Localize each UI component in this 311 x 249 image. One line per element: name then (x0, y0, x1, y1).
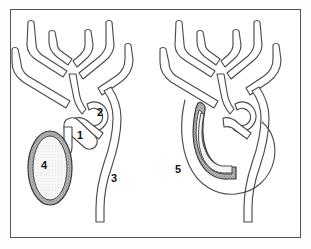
label-1-cystic-duct: 1 (77, 129, 83, 141)
figure-root: 1 2 3 4 5 (0, 0, 311, 249)
right-panel-group (160, 21, 281, 223)
label-5-elongated-gallbladder: 5 (175, 163, 181, 175)
label-3-common-bile-duct: 3 (111, 172, 117, 184)
left-gallbladder (28, 131, 72, 205)
label-2-duct-junction: 2 (97, 106, 103, 118)
label-4-gallbladder: 4 (41, 159, 48, 171)
left-panel-group (12, 21, 133, 223)
biliary-anatomy-illustration: 1 2 3 4 5 (0, 0, 311, 249)
